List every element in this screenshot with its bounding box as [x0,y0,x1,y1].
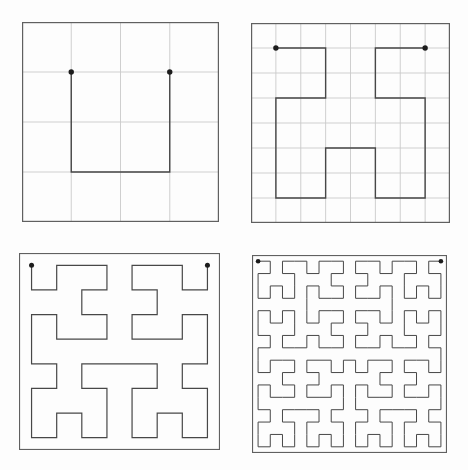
hilbert-order-3-end-dot [205,263,210,268]
hilbert-order-1-start-dot [69,69,74,74]
hilbert-order-2-grid-lines [251,23,450,223]
hilbert-order-3-svg [19,253,220,450]
panel-hilbert-order-4 [252,255,447,453]
hilbert-order-4-panel-border [253,256,447,453]
panel-hilbert-order-3 [19,253,220,450]
hilbert-order-1-svg [22,22,219,222]
panel-hilbert-order-1 [22,22,219,222]
hilbert-order-4-svg [252,255,447,453]
hilbert-order-3-start-dot [29,263,34,268]
hilbert-order-1-grid-lines [22,22,219,222]
hilbert-order-1-end-dot [167,69,172,74]
panel-hilbert-order-2 [251,23,450,223]
hilbert-order-2-end-dot [422,45,427,50]
hilbert-order-2-start-dot [273,45,278,50]
hilbert-figure [0,0,468,470]
hilbert-order-4-curve-path [258,261,441,447]
hilbert-order-3-curve-path [32,265,208,437]
hilbert-order-4-start-dot [256,259,261,264]
hilbert-order-2-svg [251,23,450,223]
hilbert-order-3-panel-border [20,254,220,450]
hilbert-order-4-end-dot [439,259,444,264]
